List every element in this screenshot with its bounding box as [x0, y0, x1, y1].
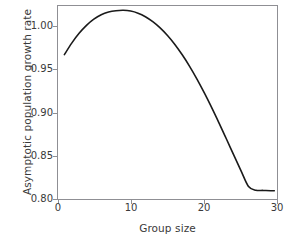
- x-tick-20: 20: [189, 203, 219, 213]
- y-tick-1.00: 1.00: [20, 26, 53, 27]
- x-tick-10: 10: [116, 203, 146, 213]
- x-tick-label: 10: [116, 203, 146, 213]
- y-tick-0.95: 0.95: [20, 69, 53, 70]
- y-tick-0.90: 0.90: [20, 113, 53, 114]
- y-tick-label: 1.00: [21, 21, 53, 31]
- x-axis-title: Group size: [57, 222, 278, 234]
- x-tick-label: 30: [262, 203, 289, 213]
- x-tick-label: 0: [43, 203, 73, 213]
- y-tick-0.80: 0.80: [20, 199, 53, 200]
- x-tick-label: 20: [189, 203, 219, 213]
- y-tick-label: 0.90: [21, 108, 53, 118]
- y-axis-title: Asymptotic population growth rate: [21, 7, 33, 197]
- x-tick-30: 30: [262, 203, 289, 213]
- chart-figure: Asymptotic population growth rate 1.00 0…: [0, 0, 289, 245]
- curve-path: [64, 10, 274, 190]
- y-tick-0.85: 0.85: [20, 156, 53, 157]
- y-tick-label: 0.95: [21, 64, 53, 74]
- growth-rate-curve: [57, 5, 278, 200]
- y-tick-label: 0.85: [21, 151, 53, 161]
- x-tick-0: 0: [43, 203, 73, 213]
